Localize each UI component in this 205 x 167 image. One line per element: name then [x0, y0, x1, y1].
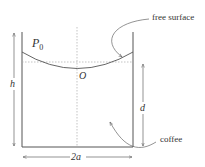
free-surface-label: free surface: [152, 13, 194, 22]
free-surface-curve: [22, 52, 133, 69]
p0-subscript: 0: [39, 43, 43, 52]
coffee-label: coffee: [160, 135, 182, 144]
coffee-cup-diagram: P0 O h d 2a free surface coffee: [0, 0, 205, 167]
free-surface-leader: [112, 19, 149, 57]
depth-label: d: [140, 103, 145, 113]
origin-label: O: [79, 71, 86, 81]
height-label: h: [10, 79, 15, 89]
p0-label: P0: [32, 37, 43, 52]
width-label: 2a: [71, 152, 81, 162]
